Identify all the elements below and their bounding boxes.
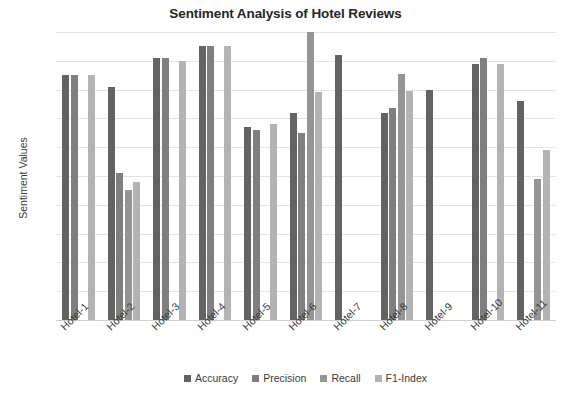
legend-swatch-icon [375,375,382,382]
sentiment-analysis-bar-chart: Sentiment Analysis of Hotel Reviews Sent… [0,0,571,402]
chart-title: Sentiment Analysis of Hotel Reviews [0,6,571,21]
chart-legend: AccuracyPrecisionRecallF1-Index [0,372,571,384]
legend-swatch-icon [320,375,327,382]
legend-item[interactable]: F1-Index [375,372,427,384]
legend-swatch-icon [184,375,191,382]
legend-item-label: Precision [263,372,306,384]
legend-item[interactable]: Recall [320,372,360,384]
legend-swatch-icon [252,375,259,382]
legend-item-label: Recall [331,372,360,384]
legend-item-label: Accuracy [195,372,238,384]
legend-item[interactable]: Accuracy [184,372,238,384]
y-axis-tick-labels: 10.90.80.70.60.50.40.30.20.10 [0,32,571,320]
x-axis-tick-labels: Hotel-1Hotel-2Hotel-3Hotel-4Hotel-5Hotel… [56,320,556,372]
legend-item-label: F1-Index [386,372,427,384]
legend-item[interactable]: Precision [252,372,306,384]
